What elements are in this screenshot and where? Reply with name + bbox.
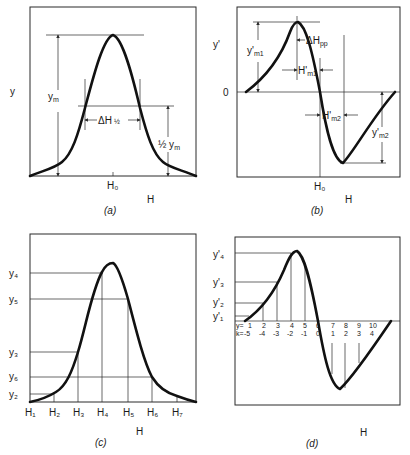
sampled-absorption-curve xyxy=(30,263,196,402)
svg-text:H'm2: H'm2 xyxy=(322,110,341,122)
svg-text:4: 4 xyxy=(290,322,294,329)
svg-text:4: 4 xyxy=(370,330,374,337)
svg-text:1: 1 xyxy=(248,322,252,329)
y6-label: y₆ xyxy=(9,371,18,382)
svg-text:7: 7 xyxy=(331,322,335,329)
h5-label: H₅ xyxy=(123,407,134,418)
svg-text:y: y xyxy=(10,86,15,97)
svg-text:-3: -3 xyxy=(273,330,279,337)
h4-label: H₄ xyxy=(97,407,108,418)
h3-label: H₃ xyxy=(73,407,84,418)
svg-text:8: 8 xyxy=(344,322,348,329)
y2-label: y₂ xyxy=(9,389,18,400)
k-index-row: -5 -4 -3 -2 -1 0 1 2 3 4 xyxy=(244,330,374,337)
x-axis-label: H xyxy=(345,194,352,205)
svg-text:-1: -1 xyxy=(301,330,307,337)
dhpp-label: ΔH xyxy=(306,35,320,46)
y3-label: y₃ xyxy=(9,347,18,358)
h1-label: H₁ xyxy=(25,407,36,418)
x-axis-label: H xyxy=(136,426,143,437)
h6-label: H₆ xyxy=(147,407,158,418)
panel-a-absorption-curve: y ym ΔH½ ½ ym H₀ H (a) xyxy=(10,7,196,216)
svg-text:10: 10 xyxy=(369,322,377,329)
h0-tick-label: H₀ xyxy=(107,180,118,191)
panel-a-caption: (a) xyxy=(104,205,116,216)
h2-label: H₂ xyxy=(49,407,60,418)
panel-b-derivative-curve: y' 0 y'm1 ΔHpp H'm1 H'm2 y'm2 H₀ H (b) xyxy=(213,7,400,216)
svg-text:½ ym: ½ ym xyxy=(158,139,180,151)
svg-text:2: 2 xyxy=(344,330,348,337)
svg-text:1: 1 xyxy=(331,330,335,337)
y-index-row: 1 2 3 4 5 6 7 8 9 10 xyxy=(248,322,377,329)
h0-tick-label: H₀ xyxy=(314,181,325,192)
hm1-label: H' xyxy=(298,65,307,76)
x-axis-label: H xyxy=(360,427,367,438)
zero-label: 0 xyxy=(223,87,229,98)
y4-prime-label: y'₄ xyxy=(213,249,224,260)
svg-text:9: 9 xyxy=(357,322,361,329)
panel-c-sampled-absorption: y₄ y₅ y₃ y₆ y₂ H₁ H₂ H₃ H₄ H₅ H₆ H₇ H (c… xyxy=(9,234,196,448)
y1-prime-label: y'₁ xyxy=(213,311,224,322)
y3-prime-label: y'₃ xyxy=(213,277,224,288)
svg-text:3: 3 xyxy=(357,330,361,337)
svg-text:-5: -5 xyxy=(244,330,250,337)
x-axis-label: H xyxy=(147,194,154,205)
y5-label: y₅ xyxy=(9,294,18,305)
svg-text:y'm1: y'm1 xyxy=(247,45,264,57)
panel-d-sampled-derivative: y'₄ y'₃ y'₂ y'₁ y= k= 1 2 3 4 5 6 7 8 9 … xyxy=(213,237,400,449)
y-prime-axis-label: y' xyxy=(213,39,220,50)
panel-d-caption: (d) xyxy=(306,438,318,449)
svg-text:5: 5 xyxy=(303,322,307,329)
k-index-prefix: k= xyxy=(236,330,244,337)
svg-text:-4: -4 xyxy=(259,330,265,337)
panel-c-caption: (c) xyxy=(95,437,107,448)
h7-label: H₇ xyxy=(172,407,183,418)
y4-label: y₄ xyxy=(9,268,18,279)
y-index-prefix: y= xyxy=(236,322,244,330)
half-ym-label: ½ y xyxy=(158,139,174,150)
svg-text:ΔH½: ΔH½ xyxy=(98,115,120,126)
absorption-curve xyxy=(30,35,196,176)
dh-half-label: ΔH xyxy=(98,115,112,126)
svg-text:ym: ym xyxy=(48,91,59,103)
svg-text:2: 2 xyxy=(262,322,266,329)
svg-text:0: 0 xyxy=(316,330,320,337)
svg-text:3: 3 xyxy=(276,322,280,329)
y2-prime-label: y'₂ xyxy=(213,297,224,308)
svg-text:6: 6 xyxy=(316,322,320,329)
svg-text:y'm2: y'm2 xyxy=(372,127,389,139)
hm2-label: H' xyxy=(322,110,331,121)
panel-b-caption: (b) xyxy=(311,205,323,216)
y-axis-label: y xyxy=(10,86,15,97)
panel-a-frame xyxy=(30,7,196,176)
sampled-derivative-curve xyxy=(245,251,391,389)
figure-canvas: y ym ΔH½ ½ ym H₀ H (a) xyxy=(0,0,410,455)
svg-text:-2: -2 xyxy=(287,330,293,337)
